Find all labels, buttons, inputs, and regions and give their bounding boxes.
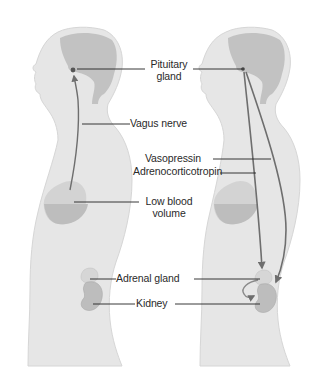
right-body-silhouette xyxy=(199,27,300,366)
low-blood-volume-label: Low blood volume xyxy=(138,195,200,219)
vagus-nerve-label: Vagus nerve xyxy=(130,117,187,129)
adrenal-gland-label: Adrenal gland xyxy=(116,272,180,284)
kidney-label: Kidney xyxy=(136,297,168,309)
vasopressin-label: Vasopressin xyxy=(145,152,201,164)
adrenocorticotropin-label: Adrenocorticotropin xyxy=(133,165,222,177)
low-blood-label-line1: Low blood xyxy=(138,195,200,207)
left-pituitary-dot xyxy=(71,68,76,73)
pituitary-gland-label: Pituitary gland xyxy=(146,58,192,82)
pituitary-label-line2: gland xyxy=(146,70,192,82)
low-blood-label-line2: volume xyxy=(138,207,200,219)
left-body-silhouette xyxy=(28,27,132,366)
pituitary-label-line1: Pituitary xyxy=(146,58,192,70)
